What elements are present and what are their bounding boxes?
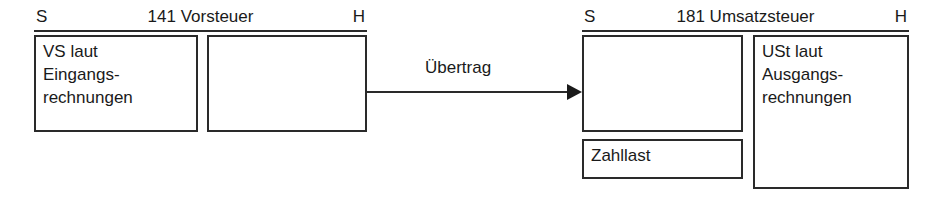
account-title-umsatzsteuer: 181 Umsatzsteuer [582,6,909,28]
zahllast-box: Zahllast [582,139,743,179]
t-account-diagram: S 141 Vorsteuer H VS laut Eingangs- rech… [0,0,948,203]
account-rule-vorsteuer [34,30,367,32]
debit-entry-text-vorsteuer: VS laut Eingangs- rechnungen [43,40,191,109]
account-title-vorsteuer: 141 Vorsteuer [34,6,367,28]
t-account-header-umsatzsteuer: S 181 Umsatzsteuer H [582,6,909,30]
zahllast-label: Zahllast [591,144,736,167]
debit-box-vorsteuer: VS laut Eingangs- rechnungen [34,35,198,132]
credit-side-label-vorsteuer: H [353,6,365,28]
t-account-header-vorsteuer: S 141 Vorsteuer H [34,6,367,30]
transfer-arrow-label: Übertrag [425,57,491,79]
t-account-vorsteuer: S 141 Vorsteuer H VS laut Eingangs- rech… [34,6,367,136]
account-rule-umsatzsteuer [582,30,909,32]
transfer-arrow-head-icon [567,84,582,100]
credit-box-vorsteuer [207,35,367,132]
transfer-arrow-line [366,91,569,93]
debit-box-umsatzsteuer [582,35,743,132]
credit-box-umsatzsteuer: USt laut Ausgangs- rechnungen [753,35,909,189]
credit-entry-text-umsatzsteuer: USt laut Ausgangs- rechnungen [762,40,902,109]
t-account-umsatzsteuer: S 181 Umsatzsteuer H Zahllast USt laut A… [582,6,909,193]
credit-side-label-umsatzsteuer: H [895,6,907,28]
